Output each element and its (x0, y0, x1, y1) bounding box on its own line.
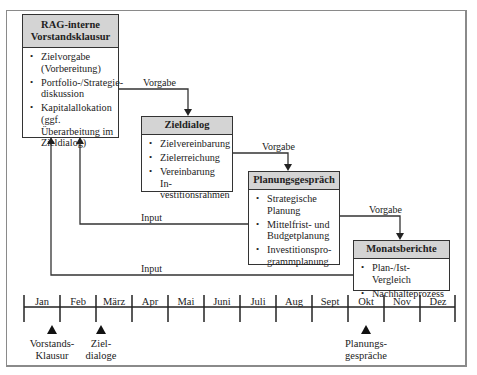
box-monatsberichte: Monatsberichte Plan-/Ist-Vergleich Nachh… (353, 240, 450, 291)
box-planungsgespraech-title: Planungsgespräch (249, 172, 339, 190)
list-item: Strategische Planung (256, 193, 335, 216)
marker-zieldialoge: Ziel- dialoge (79, 325, 123, 362)
marker-vorstandsklausur: Vorstands- Klausur (20, 325, 84, 362)
box-vorstandsklausur-list: Zielvorgabe (Vorbereitung) Portfolio-/St… (23, 48, 118, 153)
list-item: Portfolio-/Strategie-diskussion (30, 77, 114, 100)
box-vorstandsklausur-title: RAG-interne Vorstandsklausur (23, 15, 118, 48)
month-nov: Nov (384, 296, 420, 307)
box-zieldialog-list: Zielvereinbarung Zielerreichung Vereinba… (142, 135, 232, 205)
list-item: Zielvorgabe (Vorbereitung) (30, 51, 114, 74)
list-item: Plan-/Ist-Vergleich (361, 262, 445, 285)
triangle-up-icon (361, 325, 371, 334)
month-maerz: März (96, 296, 132, 307)
list-item: Vereinbarung In-vestitionsrahmen (149, 166, 228, 201)
box-planungsgespraech-list: Strategische Planung Mittelfrist- und Bu… (249, 190, 339, 272)
triangle-up-icon (47, 325, 57, 334)
label-input-2: Input (141, 263, 162, 274)
marker-planungsgespraeche: Planungs- gespräche (334, 325, 398, 362)
month-dez: Dez (420, 296, 456, 307)
list-item: Kapitalallokation (ggf. Überarbeitung im… (30, 102, 114, 148)
list-item: Investitionspro-grammplanung (256, 244, 335, 267)
month-okt: Okt (348, 296, 384, 307)
box-planungsgespraech: Planungsgespräch Strategische Planung Mi… (248, 171, 340, 265)
label-vorgabe-1: Vorgabe (143, 77, 176, 88)
month-mai: Mai (168, 296, 204, 307)
list-item: Zielerreichung (149, 152, 228, 164)
month-aug: Aug (276, 296, 312, 307)
box-zieldialog: Zieldialog Zielvereinbarung Zielerreichu… (141, 116, 233, 192)
month-feb: Feb (60, 296, 96, 307)
month-juni: Juni (204, 296, 240, 307)
month-jan: Jan (24, 296, 60, 307)
month-sept: Sept (312, 296, 348, 307)
box-zieldialog-title: Zieldialog (142, 117, 232, 135)
month-apr: Apr (132, 296, 168, 307)
label-input-1: Input (141, 212, 162, 223)
label-vorgabe-3: Vorgabe (369, 204, 402, 215)
list-item: Zielvereinbarung (149, 138, 228, 150)
box-monatsberichte-title: Monatsberichte (354, 241, 449, 259)
list-item: Mittelfrist- und Budgetplanung (256, 219, 335, 242)
label-vorgabe-2: Vorgabe (262, 141, 295, 152)
month-juli: Juli (240, 296, 276, 307)
triangle-up-icon (96, 325, 106, 334)
box-vorstandsklausur: RAG-interne Vorstandsklausur Zielvorgabe… (22, 14, 119, 138)
